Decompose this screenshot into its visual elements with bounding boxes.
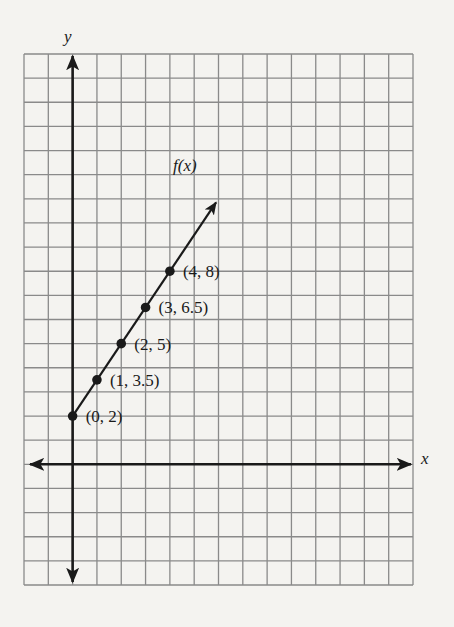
coordinate-plane: (0, 2)(1, 3.5)(2, 5)(3, 6.5)(4, 8)f(x)xy [0,0,454,627]
data-point [165,266,175,276]
point-label: (3, 6.5) [159,298,209,317]
point-label: (1, 3.5) [110,371,160,390]
point-label: (2, 5) [134,335,171,354]
point-label: (4, 8) [183,262,220,281]
data-point [68,411,78,421]
y-axis-label: y [62,27,72,46]
data-point [141,303,151,313]
point-label: (0, 2) [86,407,123,426]
x-axis-label: x [420,449,429,468]
function-label: f(x) [173,156,197,175]
data-point [116,339,126,349]
data-point [92,375,102,385]
